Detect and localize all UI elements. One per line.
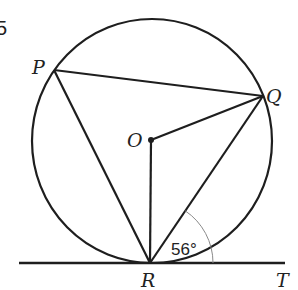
angle-label-56: 56°: [171, 240, 197, 259]
label-R: R: [140, 269, 155, 290]
label-P: P: [31, 56, 46, 78]
radius-OR: [150, 140, 151, 263]
segment-QR: [150, 96, 263, 263]
center-dot-O: [148, 137, 154, 143]
question-number-fragment: 5: [0, 17, 7, 39]
segment-PQ: [54, 70, 263, 96]
label-Q: Q: [266, 85, 282, 107]
label-T: T: [276, 269, 290, 290]
label-O: O: [127, 129, 143, 151]
segment-PR: [54, 70, 150, 263]
circle-geometry-diagram: 5 P Q O R T 56°: [0, 0, 298, 290]
radius-OQ: [151, 96, 263, 140]
